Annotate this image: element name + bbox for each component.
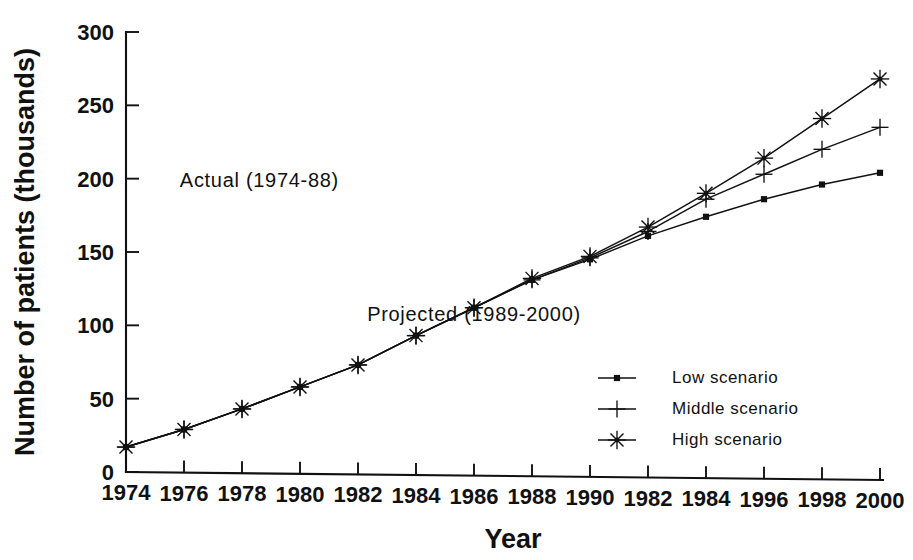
- marker-asterisk-core: [298, 385, 303, 390]
- patients-projection-line-chart: 050100150200250300 197419761978198019821…: [0, 0, 913, 560]
- x-tick-label: 1990: [566, 485, 615, 510]
- marker-asterisk-core: [704, 191, 709, 196]
- marker-asterisk-core: [240, 407, 245, 412]
- legend-label: Low scenario: [672, 368, 778, 387]
- marker-square: [877, 170, 883, 176]
- marker-asterisk-core: [878, 77, 883, 82]
- marker-asterisk-core: [762, 156, 767, 161]
- x-tick-label: 1986: [450, 484, 499, 509]
- y-tick-label: 150: [77, 240, 114, 265]
- x-tick-label: 1982: [334, 482, 383, 507]
- x-tick-label: 1980: [276, 482, 325, 507]
- chart-annotation: Actual (1974-88): [180, 169, 339, 191]
- y-axis-title: Number of patients (thousands): [10, 48, 40, 456]
- marker-asterisk-core: [615, 438, 620, 443]
- y-tick-label: 100: [77, 313, 114, 338]
- marker-asterisk-core: [646, 225, 651, 230]
- y-tick-label: 250: [77, 93, 114, 118]
- chart-annotation: Projected (1989-2000): [367, 303, 581, 325]
- x-tick-label: 1978: [218, 481, 267, 506]
- chart-figure: 050100150200250300 197419761978198019821…: [0, 0, 913, 560]
- x-tick-label: 1998: [798, 487, 847, 512]
- y-tick-label: 200: [77, 167, 114, 192]
- x-tick-label: 1996: [740, 487, 789, 512]
- x-tick-label: 2000: [856, 488, 905, 513]
- x-tick-label: 1984: [392, 483, 442, 508]
- marker-square: [703, 214, 709, 220]
- x-tick-label: 1988: [508, 484, 557, 509]
- marker-square: [819, 181, 825, 187]
- marker-asterisk-core: [124, 445, 129, 450]
- x-tick-label: 1984: [682, 486, 732, 511]
- marker-asterisk-core: [530, 276, 535, 281]
- y-tick-label: 50: [90, 387, 114, 412]
- x-tick-label: 1976: [160, 481, 209, 506]
- legend-label: Middle scenario: [672, 399, 799, 418]
- marker-square: [614, 375, 620, 381]
- x-tick-label: 1974: [102, 480, 152, 505]
- marker-asterisk-core: [414, 333, 419, 338]
- marker-asterisk-core: [182, 427, 187, 432]
- y-tick-label: 300: [77, 20, 114, 45]
- x-tick-label: 1982: [624, 486, 673, 511]
- marker-asterisk-core: [820, 116, 825, 121]
- x-axis-title: Year: [484, 524, 542, 554]
- legend-label: High scenario: [672, 430, 782, 449]
- marker-asterisk-core: [356, 363, 361, 368]
- marker-square: [761, 196, 767, 202]
- marker-asterisk-core: [588, 254, 593, 259]
